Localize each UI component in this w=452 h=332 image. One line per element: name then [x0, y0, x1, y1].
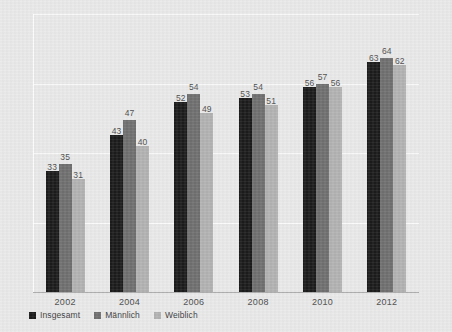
legend-swatch-icon [94, 312, 101, 319]
bar-2008-männlich: 54 [252, 14, 265, 292]
bar-2002-weiblich: 31 [72, 14, 85, 292]
bar-2012-männlich: 64 [380, 14, 393, 292]
legend-item-weiblich[interactable]: Weiblich [154, 310, 198, 320]
x-tick-label-2004: 2004 [100, 297, 160, 307]
plot-area: 333531434740525449535451565756636462 [33, 14, 419, 292]
bar-group: 535451 [239, 14, 278, 292]
chart-legend: InsgesamtMännlichWeiblich [29, 310, 198, 320]
bar-2004-männlich: 47 [123, 14, 136, 292]
bar-2012-weiblich: 62 [393, 14, 406, 292]
bar-value-label: 49 [194, 105, 220, 114]
bar-group: 525449 [174, 14, 213, 292]
x-tick-label-2010: 2010 [293, 297, 353, 307]
bar-rect [380, 58, 393, 292]
bar-group: 565756 [303, 14, 342, 292]
gridline [33, 153, 419, 154]
gridline [33, 84, 419, 85]
bar-2004-weiblich: 40 [136, 14, 149, 292]
bar-rect [393, 65, 406, 292]
bar-value-label: 31 [65, 171, 91, 180]
legend-item-männlich[interactable]: Männlich [94, 310, 140, 320]
bar-rect [367, 62, 380, 292]
bar-rect [59, 164, 72, 292]
legend-label: Männlich [105, 310, 140, 320]
legend-label: Insgesamt [40, 310, 80, 320]
bar-2002-männlich: 35 [59, 14, 72, 292]
legend-swatch-icon [29, 312, 36, 319]
x-tick-label-2008: 2008 [228, 297, 288, 307]
bar-rect [265, 105, 278, 292]
bar-rect [200, 113, 213, 292]
bar-2008-weiblich: 51 [265, 14, 278, 292]
bar-rect [46, 171, 59, 292]
legend-swatch-icon [154, 312, 161, 319]
bar-chart: 333531434740525449535451565756636462 200… [0, 0, 452, 332]
legend-label: Weiblich [165, 310, 198, 320]
bar-2008-insgesamt: 53 [239, 14, 252, 292]
bar-group: 636462 [367, 14, 406, 292]
bar-2006-männlich: 54 [187, 14, 200, 292]
bar-group: 434740 [110, 14, 149, 292]
bar-value-label: 62 [387, 57, 413, 66]
bar-rect [174, 102, 187, 292]
bar-rect [239, 98, 252, 292]
legend-item-insgesamt[interactable]: Insgesamt [29, 310, 80, 320]
bar-2010-männlich: 57 [316, 14, 329, 292]
bar-rect [110, 135, 123, 292]
y-axis-line [33, 14, 34, 292]
bar-2010-weiblich: 56 [329, 14, 342, 292]
bar-group: 333531 [46, 14, 85, 292]
bar-rect [329, 87, 342, 292]
gridline [33, 14, 419, 15]
bar-rect [187, 94, 200, 292]
bar-value-label: 40 [130, 138, 156, 147]
bar-rect [136, 146, 149, 292]
bar-value-label: 51 [258, 97, 284, 106]
bar-rect [72, 179, 85, 292]
bar-2006-weiblich: 49 [200, 14, 213, 292]
x-tick-label-2006: 2006 [164, 297, 224, 307]
bar-2006-insgesamt: 52 [174, 14, 187, 292]
bar-rect [316, 84, 329, 293]
bar-value-label: 56 [323, 79, 349, 88]
x-tick-label-2002: 2002 [35, 297, 95, 307]
bar-rect [252, 94, 265, 292]
bar-2010-insgesamt: 56 [303, 14, 316, 292]
x-axis-line [33, 292, 419, 293]
bar-2004-insgesamt: 43 [110, 14, 123, 292]
bar-rect [303, 87, 316, 292]
x-tick-label-2012: 2012 [357, 297, 417, 307]
gridline [33, 223, 419, 224]
